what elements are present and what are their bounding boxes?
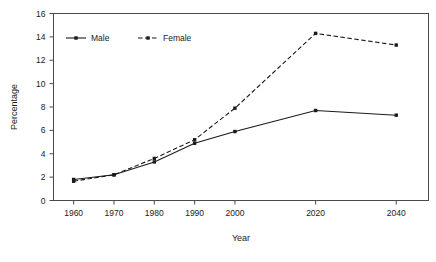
- y-tick-label: 8: [41, 102, 46, 112]
- y-tick-label: 14: [36, 32, 46, 42]
- data-point-marker-female: [153, 157, 156, 160]
- legend-label-female: Female: [163, 33, 192, 43]
- y-tick-label: 16: [36, 9, 46, 19]
- x-tick-label: 1960: [64, 208, 83, 218]
- data-point-marker-female: [193, 138, 196, 141]
- y-axis-title: Percentage: [9, 84, 19, 130]
- y-tick-label: 4: [41, 149, 46, 159]
- data-point-marker-male: [395, 113, 398, 116]
- y-tick-label: 6: [41, 125, 46, 135]
- legend-marker-male: [74, 36, 77, 39]
- y-tick-label: 10: [36, 79, 46, 89]
- x-tick-label: 1990: [185, 208, 204, 218]
- y-tick-label: 0: [41, 196, 46, 206]
- data-point-marker-female: [314, 32, 317, 35]
- x-tick-label: 1980: [145, 208, 164, 218]
- data-point-marker-male: [233, 130, 236, 133]
- data-point-marker-female: [233, 106, 236, 109]
- series-line-male: [74, 111, 397, 180]
- data-point-marker-female: [395, 43, 398, 46]
- x-tick-label: 2000: [225, 208, 244, 218]
- y-axis-tick-labels: 0246810121416: [36, 9, 46, 206]
- x-axis-title: Year: [232, 233, 250, 243]
- chart-legend: MaleFemale: [66, 33, 192, 43]
- x-axis-tick-labels: 1960197019801990200020202040: [64, 208, 406, 218]
- y-tick-label: 2: [41, 172, 46, 182]
- x-tick-label: 1970: [105, 208, 124, 218]
- x-tick-label: 2040: [387, 208, 406, 218]
- data-point-marker-male: [193, 142, 196, 145]
- data-point-marker-male: [153, 160, 156, 163]
- legend-marker-female: [146, 36, 149, 39]
- legend-label-male: Male: [91, 33, 110, 43]
- x-axis-tick-marks: [74, 201, 397, 205]
- y-tick-label: 12: [36, 55, 46, 65]
- chart-container: 0246810121416 19601970198019902000202020…: [0, 0, 436, 262]
- x-tick-label: 2020: [306, 208, 325, 218]
- data-series-layer: [72, 32, 398, 183]
- data-point-marker-female: [72, 180, 75, 183]
- data-point-marker-male: [314, 109, 317, 112]
- y-axis-tick-marks: [50, 14, 54, 201]
- line-chart: 0246810121416 19601970198019902000202020…: [0, 0, 436, 262]
- data-point-marker-female: [112, 173, 115, 176]
